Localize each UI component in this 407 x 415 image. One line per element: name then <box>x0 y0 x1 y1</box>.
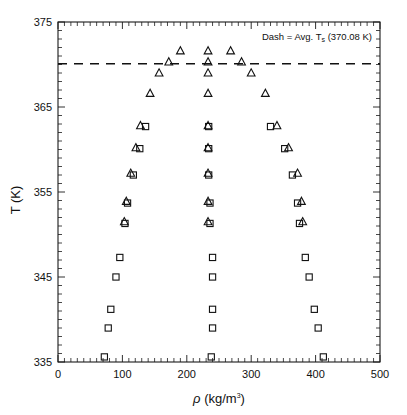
x-tick-label: 0 <box>55 368 61 380</box>
data-point-triangle <box>273 122 281 129</box>
data-point-triangle <box>298 197 306 204</box>
x-axis-title: ρ (kg/m3) <box>192 391 245 406</box>
data-point-square <box>209 274 215 280</box>
data-point-square <box>311 306 317 312</box>
x-axis-tick-labels: 0100200300400500 <box>55 368 389 380</box>
plot-frame <box>58 22 380 362</box>
x-tick-label: 400 <box>306 368 324 380</box>
y-tick-label: 355 <box>34 186 52 198</box>
y-tick-label: 335 <box>34 356 52 368</box>
data-point-triangle <box>294 169 302 176</box>
data-point-square <box>209 254 215 260</box>
scatter-plot: 0100200300400500 335345355365375 Dash = … <box>0 0 407 415</box>
data-point-triangle <box>155 69 163 76</box>
data-point-triangle <box>177 47 185 54</box>
data-point-square <box>302 254 308 260</box>
data-point-triangle <box>204 47 212 54</box>
series-squares <box>101 123 326 360</box>
x-tick-label: 100 <box>113 368 131 380</box>
data-point-square <box>306 274 312 280</box>
x-tick-label: 300 <box>242 368 260 380</box>
data-point-square <box>209 306 215 312</box>
data-point-triangle <box>262 89 270 96</box>
data-point-square <box>108 306 114 312</box>
y-axis-title: T (K) <box>8 186 23 215</box>
data-point-square <box>209 325 215 331</box>
data-point-triangle <box>204 197 212 204</box>
data-point-square <box>117 254 123 260</box>
data-point-triangle <box>122 197 130 204</box>
chart-figure: 0100200300400500 335345355365375 Dash = … <box>0 0 407 415</box>
data-point-triangle <box>285 144 293 151</box>
dash-annotation-label: Dash = Avg. Ts (370.08 K) <box>262 31 372 43</box>
data-point-triangle <box>146 89 154 96</box>
data-point-triangle <box>247 69 255 76</box>
y-tick-label: 375 <box>34 16 52 28</box>
data-point-square <box>315 325 321 331</box>
series-triangles <box>120 47 306 225</box>
x-axis-ticks <box>58 22 380 362</box>
data-point-square <box>105 325 111 331</box>
data-point-triangle <box>137 122 145 129</box>
y-axis-ticks <box>58 22 380 362</box>
data-point-square <box>113 274 119 280</box>
y-axis-tick-labels: 335345355365375 <box>34 16 52 368</box>
x-tick-label: 200 <box>178 368 196 380</box>
data-point-square <box>320 354 326 360</box>
data-point-triangle <box>227 47 235 54</box>
y-tick-label: 365 <box>34 101 52 113</box>
data-point-triangle <box>204 218 212 225</box>
data-point-triangle <box>204 69 212 76</box>
data-point-square <box>101 354 107 360</box>
x-tick-label: 500 <box>371 368 389 380</box>
y-tick-label: 345 <box>34 271 52 283</box>
data-point-triangle <box>165 58 173 65</box>
data-point-square <box>208 354 214 360</box>
data-point-triangle <box>132 144 140 151</box>
data-point-triangle <box>204 89 212 96</box>
